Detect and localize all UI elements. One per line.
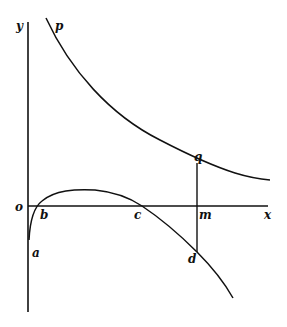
diagram-canvas: y p q o b c m x a d xyxy=(0,0,287,327)
label-m: m xyxy=(199,208,212,222)
label-o: o xyxy=(15,200,23,214)
curve-p xyxy=(46,18,270,180)
label-p: p xyxy=(55,19,64,33)
label-y: y xyxy=(15,19,24,33)
label-b: b xyxy=(40,208,48,222)
label-x: x xyxy=(263,208,272,222)
label-q: q xyxy=(194,150,202,164)
label-a: a xyxy=(32,246,40,260)
label-c: c xyxy=(134,208,142,222)
label-d: d xyxy=(188,252,197,266)
